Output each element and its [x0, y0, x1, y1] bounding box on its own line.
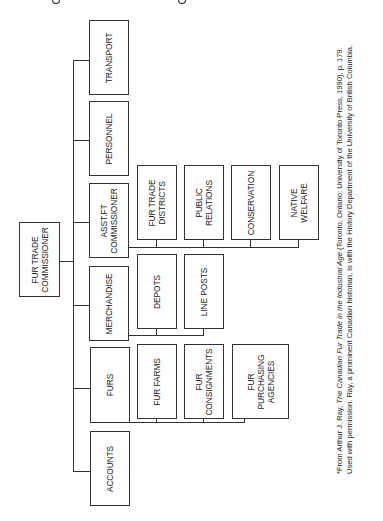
- box-conservation: CONSERVATION: [231, 165, 271, 240]
- box-label: ASST.FT COMMISSIONER: [99, 188, 119, 253]
- connector-asst: [73, 222, 89, 223]
- box-label: DEPOTS: [152, 275, 162, 309]
- box-furs: FURS: [90, 347, 130, 423]
- box-line-posts: LINE POSTS: [184, 254, 224, 329]
- footnote-prefix: *From Arthur J. Ray,: [335, 404, 344, 474]
- box-label: FUR TRADE COMMISSIONER: [30, 227, 50, 292]
- box-fur-trade-districts: FUR TRADE DISTRICTS: [137, 165, 177, 240]
- box-label: CONSERVATION: [246, 170, 256, 234]
- connector-districts: [156, 239, 157, 247]
- box-fur-trade-commissioner: FUR TRADE COMMISSIONER: [19, 222, 60, 297]
- box-label: FUR TRADE DISTRICTS: [147, 179, 167, 226]
- box-label: ACCOUNTS: [105, 445, 115, 491]
- connector-conservation: [250, 239, 251, 247]
- connector-merchandise: [73, 305, 89, 306]
- connector-depots: [156, 328, 157, 335]
- box-public-relations: PUBLIC RELATIONS: [184, 165, 224, 240]
- connector-asst-bus: [128, 247, 299, 248]
- box-depots: DEPOTS: [137, 254, 177, 329]
- box-fur-purchasing-agencies: FUR PURCHASING AGENCIES: [232, 344, 289, 419]
- box-asst-ft-commissioner: ASST.FT COMMISSIONER: [89, 183, 129, 258]
- box-fur-consignments: FUR CONSIGNMENTS: [184, 344, 224, 419]
- box-merchandise: MERCHANDISE: [89, 266, 129, 341]
- box-accounts: ACCOUNTS: [90, 431, 130, 506]
- box-label: FUR FARMS: [152, 358, 162, 406]
- footnote-book-title: The Canadian Fur Trade in the Industrial…: [335, 252, 344, 404]
- box-label: PERSONNEL: [104, 113, 114, 164]
- clipped-heading: [40, 0, 340, 4]
- box-label: LINE POSTS: [199, 267, 209, 315]
- connector-root-to-spine: [59, 261, 74, 262]
- connector-line-posts: [203, 328, 204, 335]
- connector-public-relations: [203, 239, 204, 247]
- box-label: FUR CONSIGNMENTS: [194, 348, 214, 415]
- connector-spine: [73, 60, 74, 472]
- connector-accounts: [73, 471, 90, 472]
- connector-personnel: [73, 140, 89, 141]
- box-label: NATIVE WELFARE: [289, 183, 309, 222]
- connector-native-welfare: [298, 239, 299, 247]
- connector-transport: [73, 60, 89, 61]
- box-personnel: PERSONNEL: [89, 101, 129, 176]
- box-native-welfare: NATIVE WELFARE: [279, 165, 319, 240]
- source-footnote: *From Arthur J. Ray, The Canadian Fur Tr…: [335, 39, 355, 474]
- connector-furs-bus: [129, 422, 245, 423]
- box-label: TRANSPORT: [104, 32, 114, 83]
- box-transport: TRANSPORT: [89, 20, 129, 95]
- box-label: FUR PURCHASING AGENCIES: [246, 354, 276, 409]
- connector-furs: [73, 388, 90, 389]
- box-label: FURS: [105, 374, 115, 396]
- box-label: MERCHANDISE: [104, 273, 114, 334]
- box-fur-farms: FUR FARMS: [137, 344, 177, 419]
- box-label: PUBLIC RELATIONS: [194, 180, 214, 226]
- connector-merchandise-bus: [128, 335, 204, 336]
